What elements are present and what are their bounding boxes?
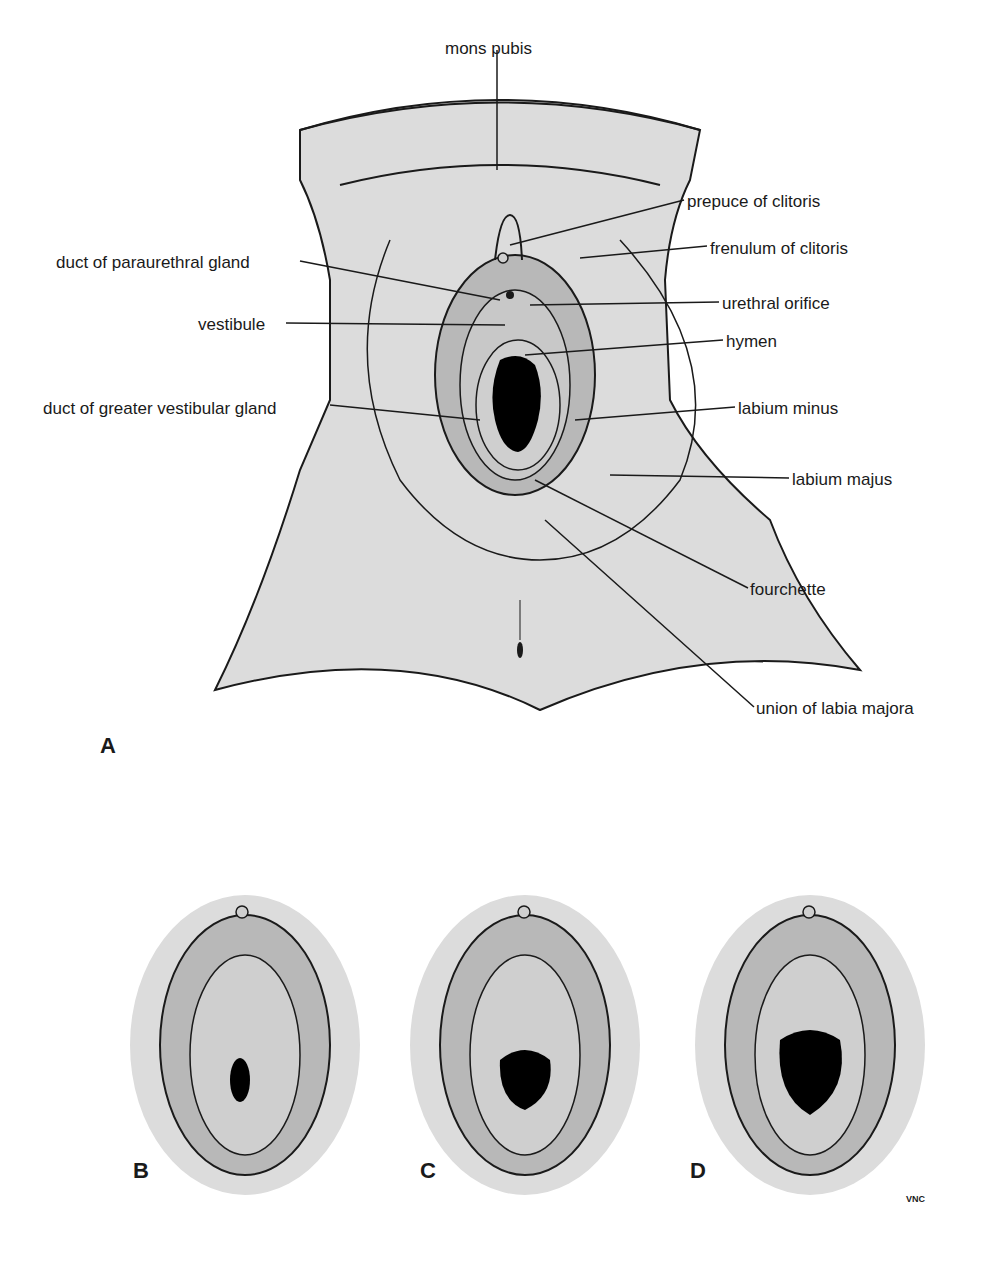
label-hymen: hymen — [726, 333, 777, 350]
label-union-labia-majora: union of labia majora — [756, 700, 914, 717]
anatomical-diagram — [0, 0, 992, 1261]
panel-c — [410, 895, 640, 1195]
panel-letter-b: B — [133, 1160, 149, 1182]
label-mons-pubis: mons pubis — [445, 40, 532, 57]
label-vestibular-duct: duct of greater vestibular gland — [43, 400, 276, 417]
label-urethral-orifice: urethral orifice — [722, 295, 830, 312]
panel-letter-d: D — [690, 1160, 706, 1182]
label-vestibule: vestibule — [198, 316, 265, 333]
panel-letter-c: C — [420, 1160, 436, 1182]
label-labium-majus: labium majus — [792, 471, 892, 488]
label-labium-minus: labium minus — [738, 400, 838, 417]
label-prepuce: prepuce of clitoris — [687, 193, 820, 210]
panel-d — [695, 895, 925, 1195]
label-fourchette: fourchette — [750, 581, 826, 598]
artist-signature: VNC — [906, 1194, 925, 1204]
label-paraurethral-duct: duct of paraurethral gland — [56, 254, 250, 271]
label-frenulum: frenulum of clitoris — [710, 240, 848, 257]
panel-letter-a: A — [100, 735, 116, 757]
panel-b — [130, 895, 360, 1195]
